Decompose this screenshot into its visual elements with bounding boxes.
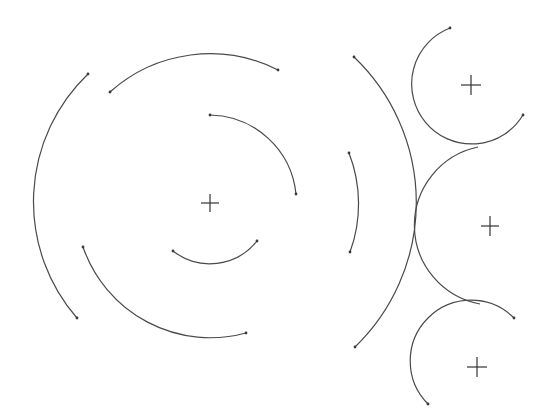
inner-lower-arc bbox=[173, 241, 257, 264]
top-circle-arc bbox=[412, 28, 523, 144]
lower-left-arc bbox=[83, 247, 246, 338]
center-cross-icon bbox=[461, 75, 481, 95]
arc-diagram bbox=[0, 0, 542, 420]
middle-circle-arc bbox=[414, 147, 480, 304]
right-short-arc bbox=[349, 153, 359, 252]
arc-endpoints bbox=[76, 27, 525, 406]
center-cross-icon bbox=[201, 194, 219, 212]
outer-left-arc bbox=[33, 74, 88, 318]
center-cross-icon bbox=[467, 357, 487, 377]
inner-upper-arc bbox=[210, 115, 296, 194]
large-right-arc bbox=[354, 57, 416, 347]
top-arc bbox=[110, 54, 278, 92]
bottom-circle-arc bbox=[410, 300, 514, 404]
center-cross-icon bbox=[481, 216, 499, 236]
